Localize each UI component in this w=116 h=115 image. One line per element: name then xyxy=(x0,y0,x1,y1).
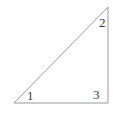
triangle-diagram: 1 2 3 xyxy=(0,0,116,115)
vertex-label-2: 2 xyxy=(99,16,106,29)
vertex-label-1: 1 xyxy=(27,89,34,102)
vertex-label-3: 3 xyxy=(93,88,100,101)
